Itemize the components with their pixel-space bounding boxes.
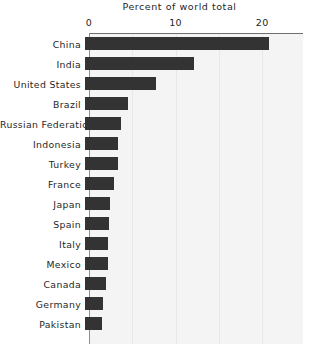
x-tick-label: 0: [86, 17, 92, 28]
bar: [85, 117, 121, 130]
bar-row: Italy: [0, 234, 313, 254]
bar-track: [85, 314, 299, 334]
bar-track: [85, 74, 299, 94]
bar-row: Brazil: [0, 94, 313, 114]
bar-track: [85, 254, 299, 274]
x-tick-label: 20: [256, 17, 269, 28]
bar: [85, 77, 156, 90]
bar-track: [85, 174, 299, 194]
category-label: Spain: [0, 219, 85, 230]
category-label: Canada: [0, 279, 85, 290]
bar-chart: Percent of world total 01020 ChinaIndiaU…: [0, 0, 313, 347]
category-label: Germany: [0, 299, 85, 310]
category-label: Indonesia: [0, 139, 85, 150]
bar-row: Russian Federation: [0, 114, 313, 134]
bar: [85, 157, 118, 170]
bar-row: France: [0, 174, 313, 194]
bar-row: Mexico: [0, 254, 313, 274]
bar: [85, 197, 110, 210]
category-label: China: [0, 39, 85, 50]
x-axis-tick-labels: 01020: [0, 17, 313, 30]
bar-row: Canada: [0, 274, 313, 294]
category-label: Turkey: [0, 159, 85, 170]
bar-track: [85, 94, 299, 114]
bar-rows: ChinaIndiaUnited StatesBrazilRussian Fed…: [0, 34, 313, 344]
bar: [85, 177, 114, 190]
bar-row: United States: [0, 74, 313, 94]
category-label: Italy: [0, 239, 85, 250]
bar-track: [85, 154, 299, 174]
bar: [85, 297, 103, 310]
category-label: Pakistan: [0, 319, 85, 330]
category-label: France: [0, 179, 85, 190]
bar-row: Japan: [0, 194, 313, 214]
category-label: Japan: [0, 199, 85, 210]
bar-track: [85, 114, 299, 134]
bar: [85, 97, 128, 110]
bar-track: [85, 214, 299, 234]
bar-track: [85, 234, 299, 254]
bar-track: [85, 274, 299, 294]
bar-row: Pakistan: [0, 314, 313, 334]
bar-track: [85, 134, 299, 154]
bar: [85, 277, 106, 290]
bar: [85, 257, 108, 270]
bar-row: China: [0, 34, 313, 54]
category-label: India: [0, 59, 85, 70]
bar-track: [85, 294, 299, 314]
bar-track: [85, 54, 299, 74]
bar: [85, 137, 118, 150]
category-label: Mexico: [0, 259, 85, 270]
bar-track: [85, 194, 299, 214]
category-label: United States: [0, 79, 85, 90]
bar: [85, 317, 102, 330]
x-tick-label: 10: [169, 17, 182, 28]
chart-title: Percent of world total: [0, 1, 313, 12]
category-label: Brazil: [0, 99, 85, 110]
bar: [85, 57, 194, 70]
bar: [85, 217, 109, 230]
bar-row: Turkey: [0, 154, 313, 174]
category-label: Russian Federation: [0, 119, 85, 130]
bar: [85, 237, 108, 250]
bar-row: Indonesia: [0, 134, 313, 154]
bar-row: Germany: [0, 294, 313, 314]
bar: [85, 37, 269, 50]
bar-row: Spain: [0, 214, 313, 234]
bar-track: [85, 34, 299, 54]
bar-row: India: [0, 54, 313, 74]
